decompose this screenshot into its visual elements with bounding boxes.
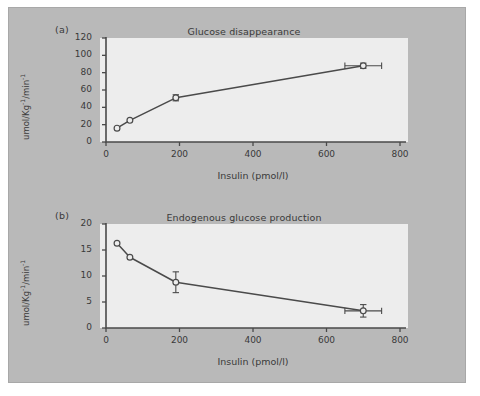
plot-svg-b: [98, 224, 408, 328]
plot-area-b: [98, 224, 408, 328]
chart-panel-b: (b) Endogenous glucose production umol/K…: [9, 198, 465, 385]
chart-title-b: Endogenous glucose production: [79, 212, 409, 223]
x-tick-label: 0: [86, 149, 126, 159]
chart-title-a: Glucose disappearance: [79, 26, 409, 37]
x-tick-label: 400: [233, 335, 273, 345]
y-tick-label: 0: [50, 322, 92, 332]
y-tick-label: 40: [50, 101, 92, 111]
x-tick-label: 600: [307, 149, 347, 159]
y-axis-label-b: umol/Kg-1/min-1: [21, 260, 31, 326]
x-tick-label: 600: [307, 335, 347, 345]
x-tick-label: 400: [233, 149, 273, 159]
y-axis-label-a-mid: /min: [21, 80, 31, 99]
y-axis-label-b-sup2: -1: [19, 260, 26, 266]
x-tick-label: 200: [160, 149, 200, 159]
plot-area-a: [98, 38, 408, 142]
x-tick-label: 0: [86, 335, 126, 345]
y-tick-label: 60: [50, 84, 92, 94]
y-axis-label-b-pre: umol/Kg: [21, 291, 31, 326]
y-axis-label-a-pre: umol/Kg: [21, 105, 31, 140]
y-axis-label-a: umol/Kg-1/min-1: [21, 74, 31, 140]
x-tick-label: 800: [380, 335, 420, 345]
plot-svg-a: [98, 38, 408, 142]
chart-panel-a: (a) Glucose disappearance umol/Kg-1/min-…: [9, 12, 465, 199]
y-tick-label: 5: [50, 296, 92, 306]
x-axis-label-a: Insulin (pmol/l): [98, 170, 408, 181]
y-tick-label: 0: [50, 136, 92, 146]
figure-panel-container: (a) Glucose disappearance umol/Kg-1/min-…: [9, 8, 465, 382]
y-axis-label-b-mid: /min: [21, 266, 31, 285]
y-axis-label-a-sup1: -1: [19, 99, 26, 105]
y-tick-label: 15: [50, 244, 92, 254]
y-axis-label-b-sup1: -1: [19, 285, 26, 291]
x-tick-label: 200: [160, 335, 200, 345]
y-tick-label: 120: [50, 32, 92, 42]
y-tick-label: 10: [50, 270, 92, 280]
x-axis-label-b: Insulin (pmol/l): [98, 356, 408, 367]
y-tick-label: 20: [50, 119, 92, 129]
y-axis-label-a-sup2: -1: [19, 74, 26, 80]
y-tick-label: 80: [50, 67, 92, 77]
y-tick-label: 100: [50, 49, 92, 59]
y-tick-label: 20: [50, 218, 92, 228]
x-tick-label: 800: [380, 149, 420, 159]
